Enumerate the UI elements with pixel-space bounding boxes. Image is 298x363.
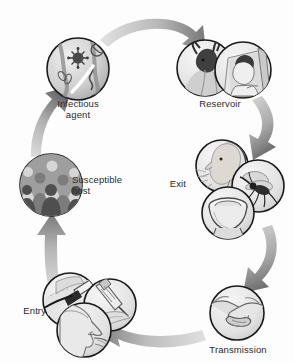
node-entry[interactable]: [43, 273, 136, 359]
reservoir-human-circle: [215, 42, 271, 98]
toilet-icon: [209, 198, 247, 241]
diagram-canvas: [0, 0, 298, 363]
edge-exit-to-transmission: [243, 225, 277, 293]
node-susceptible-host[interactable]: [18, 154, 85, 218]
entry-mucosa-circle: [57, 303, 111, 359]
node-transmission[interactable]: [210, 286, 264, 340]
node-infectious-agent[interactable]: [47, 38, 109, 101]
right-margin: [294, 0, 298, 363]
node-reservoir[interactable]: [177, 36, 271, 98]
exit-fecal-circle: [202, 187, 254, 241]
edge-reservoir-to-exit: [249, 96, 276, 160]
infection-cycle-diagram: Infectious agent Reservoir Exit Transmis…: [0, 0, 298, 363]
